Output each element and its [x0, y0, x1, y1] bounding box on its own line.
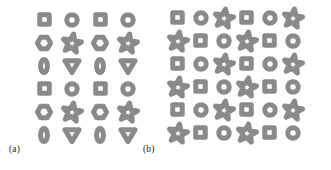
circle-icon [261, 55, 279, 73]
shape-triangle-down [114, 54, 142, 77]
square-icon [169, 101, 186, 118]
square-icon [261, 124, 278, 141]
star-icon [281, 98, 305, 122]
square-icon [192, 124, 209, 141]
shape-square [166, 6, 189, 29]
shape-triangle-down [114, 123, 142, 146]
shape-square [235, 98, 258, 121]
shape-ellipse [86, 123, 114, 146]
shape-square [258, 29, 281, 52]
star-icon [281, 52, 305, 76]
square-icon [169, 9, 186, 26]
triangle-down-icon [117, 124, 139, 146]
shape-circle [58, 8, 86, 31]
square-icon [261, 78, 278, 95]
shape-grid-b [166, 6, 304, 144]
shape-star [58, 31, 86, 54]
shape-hexagon [30, 100, 58, 123]
shape-circle [114, 77, 142, 100]
circle-icon [261, 101, 279, 119]
shape-star [212, 52, 235, 75]
shape-circle [281, 75, 304, 98]
ellipse-icon [90, 56, 110, 76]
star-icon [281, 6, 305, 30]
panel-label-b: (b) [143, 144, 155, 154]
star-icon [60, 31, 84, 55]
circle-icon [215, 124, 233, 142]
square-icon [36, 11, 53, 28]
shape-square [30, 8, 58, 31]
shape-star [166, 75, 189, 98]
circle-icon [261, 9, 279, 27]
square-icon [192, 78, 209, 95]
circle-icon [215, 78, 233, 96]
circle-icon [215, 32, 233, 50]
star-icon [166, 75, 190, 99]
shape-star [235, 75, 258, 98]
shape-grid-a [30, 8, 142, 146]
shape-circle [212, 29, 235, 52]
star-icon [212, 6, 236, 30]
star-icon [166, 29, 190, 53]
shape-star [114, 100, 142, 123]
shape-star [58, 100, 86, 123]
shape-star [166, 29, 189, 52]
shape-star [212, 98, 235, 121]
shape-circle [258, 6, 281, 29]
shape-square [189, 75, 212, 98]
circle-icon [192, 101, 210, 119]
shape-star [235, 121, 258, 144]
shape-square [235, 6, 258, 29]
shape-square [189, 29, 212, 52]
square-icon [192, 32, 209, 49]
square-icon [36, 80, 53, 97]
shape-circle [258, 98, 281, 121]
star-icon [60, 100, 84, 124]
shape-ellipse [30, 54, 58, 77]
shape-circle [114, 8, 142, 31]
star-icon [116, 31, 140, 55]
shape-star [114, 31, 142, 54]
shape-square [235, 52, 258, 75]
shape-hexagon [30, 31, 58, 54]
shape-hexagon [86, 100, 114, 123]
square-icon [92, 80, 109, 97]
hexagon-icon [90, 33, 110, 53]
panel-a [30, 8, 142, 146]
shape-circle [258, 52, 281, 75]
square-icon [169, 55, 186, 72]
square-icon [261, 32, 278, 49]
star-icon [212, 52, 236, 76]
shape-star [212, 6, 235, 29]
shape-square [86, 77, 114, 100]
shape-square [30, 77, 58, 100]
shape-triangle-down [58, 54, 86, 77]
shape-star [281, 6, 304, 29]
shape-triangle-down [58, 123, 86, 146]
panel-label-a: (a) [9, 144, 20, 154]
circle-icon [119, 80, 137, 98]
shape-square [189, 121, 212, 144]
shape-star [281, 52, 304, 75]
shape-circle [281, 29, 304, 52]
shape-circle [189, 6, 212, 29]
star-icon [235, 29, 259, 53]
shape-star [235, 29, 258, 52]
circle-icon [119, 11, 137, 29]
square-icon [92, 11, 109, 28]
panel-b [166, 6, 304, 144]
figure-canvas: (a) (b) [0, 0, 331, 170]
shape-square [86, 8, 114, 31]
triangle-down-icon [61, 124, 83, 146]
hexagon-icon [34, 102, 54, 122]
ellipse-icon [34, 125, 54, 145]
circle-icon [192, 9, 210, 27]
shape-circle [189, 98, 212, 121]
shape-ellipse [86, 54, 114, 77]
shape-square [166, 52, 189, 75]
shape-hexagon [86, 31, 114, 54]
shape-square [166, 98, 189, 121]
ellipse-icon [34, 56, 54, 76]
shape-circle [281, 121, 304, 144]
square-icon [238, 9, 255, 26]
